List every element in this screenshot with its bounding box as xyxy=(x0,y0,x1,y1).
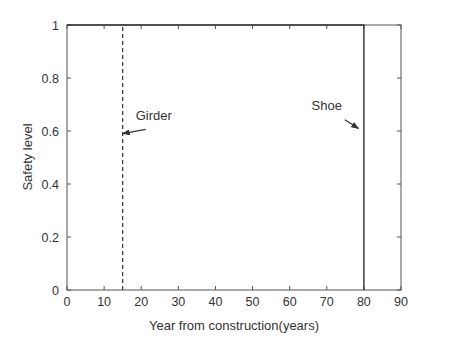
annotations: GirderShoe xyxy=(123,98,359,134)
x-tick-label: 40 xyxy=(208,295,222,309)
x-tick-label: 60 xyxy=(283,295,297,309)
annotation-arrow-icon xyxy=(345,120,359,129)
y-tick-label: 0.6 xyxy=(42,125,59,139)
y-axis-title: Safety level xyxy=(20,123,35,190)
x-tick-label: 70 xyxy=(320,295,334,309)
annotation-label-girder: Girder xyxy=(136,108,173,123)
y-tick-label: 0.2 xyxy=(42,231,59,245)
y-tick-label: 1 xyxy=(52,19,59,33)
x-axis-title: Year from construction(years) xyxy=(149,318,319,333)
x-tick-label: 20 xyxy=(134,295,148,309)
x-tick-label: 80 xyxy=(357,295,371,309)
x-tick-label: 90 xyxy=(394,295,408,309)
data-series xyxy=(67,25,364,290)
annotation-label-shoe: Shoe xyxy=(312,98,342,113)
y-tick-label: 0.4 xyxy=(42,178,59,192)
series-shoe xyxy=(67,25,364,290)
x-tick-label: 50 xyxy=(246,295,260,309)
y-tick-label: 0 xyxy=(52,284,59,298)
plot-area-border xyxy=(67,25,401,290)
x-tick-label: 10 xyxy=(97,295,111,309)
chart: 010203040506070809000.20.40.60.81 Girder… xyxy=(0,0,472,350)
y-tick-label: 0.8 xyxy=(42,72,59,86)
plot-frame xyxy=(67,25,401,290)
x-tick-label: 0 xyxy=(64,295,71,309)
axis-ticks: 010203040506070809000.20.40.60.81 xyxy=(42,19,408,310)
annotation-arrow-icon xyxy=(123,129,146,133)
x-tick-label: 30 xyxy=(171,295,185,309)
